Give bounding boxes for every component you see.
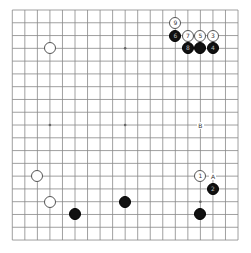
white-stone[interactable]: 9	[169, 17, 181, 29]
move-marker-b[interactable]: B	[197, 122, 204, 129]
move-marker-a[interactable]: A	[209, 173, 216, 180]
white-stone[interactable]	[44, 196, 56, 208]
white-stone[interactable]: 7	[182, 30, 194, 42]
white-stone[interactable]: 3	[207, 30, 219, 42]
black-stone[interactable]	[119, 196, 131, 208]
star-point	[49, 124, 52, 127]
black-stone[interactable]: 6	[169, 30, 181, 42]
go-board[interactable]: 123456789 AB	[0, 0, 251, 253]
star-point	[124, 124, 127, 127]
white-stone[interactable]: 5	[194, 30, 206, 42]
star-point	[199, 200, 202, 203]
star-point	[124, 47, 127, 50]
black-stone[interactable]: 2	[207, 183, 219, 195]
